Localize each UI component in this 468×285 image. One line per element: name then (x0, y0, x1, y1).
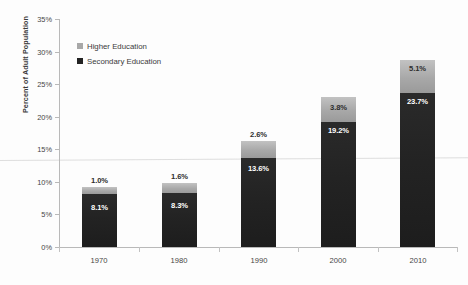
y-tick (55, 84, 60, 85)
bar-label-higher-1970: 1.0% (82, 176, 117, 185)
y-tick (55, 117, 60, 118)
y-tick (55, 182, 60, 183)
bar-segment-secondary-1970 (82, 194, 117, 247)
y-axis-line (59, 19, 60, 247)
y-tick (55, 52, 60, 53)
legend-item-secondary-education[interactable]: Secondary Education (77, 55, 161, 67)
bar-segment-secondary-2010 (400, 93, 435, 247)
x-tick (378, 247, 379, 252)
x-tick (457, 247, 458, 252)
x-axis-label-2000: 2000 (298, 256, 378, 265)
bar-label-secondary-2010: 23.7% (400, 97, 435, 106)
y-axis-label: 10% (22, 178, 52, 187)
bar-label-secondary-1970: 8.1% (82, 203, 117, 212)
y-axis-label: 35% (22, 15, 52, 24)
x-axis-label-1990: 1990 (219, 256, 299, 265)
legend-swatch-icon-higher-education (77, 43, 83, 49)
bar-segment-higher-1970 (82, 187, 117, 194)
y-tick (55, 19, 60, 20)
x-axis-label-1980: 1980 (139, 256, 219, 265)
bar-label-secondary-1980: 8.3% (162, 201, 197, 210)
x-tick (59, 247, 60, 252)
y-axis-label: 15% (22, 145, 52, 154)
bar-label-higher-2010: 5.1% (400, 64, 435, 73)
legend-label-higher-education: Higher Education (87, 42, 147, 51)
scan-artifact-line (0, 157, 468, 161)
y-tick (55, 214, 60, 215)
y-axis-label: 5% (22, 210, 52, 219)
bar-label-higher-2000: 3.8% (321, 103, 356, 112)
bar-segment-higher-1990 (241, 141, 276, 158)
y-tick (55, 149, 60, 150)
y-axis-label: 30% (22, 48, 52, 57)
y-axis-label: 0% (22, 243, 52, 252)
x-axis-line (59, 247, 457, 248)
bar-label-higher-1980: 1.6% (162, 172, 197, 181)
bar-segment-higher-1980 (162, 183, 197, 193)
y-axis-label: 25% (22, 80, 52, 89)
x-tick (298, 247, 299, 252)
chart-legend: Higher Education Secondary Education (77, 40, 161, 70)
stacked-bar-chart: Percent of Adult Population 35% 30% 25% … (0, 0, 468, 285)
legend-swatch-icon-secondary-education (77, 58, 83, 64)
x-axis-label-1970: 1970 (59, 256, 139, 265)
legend-item-higher-education[interactable]: Higher Education (77, 40, 161, 52)
bar-label-secondary-1990: 13.6% (241, 164, 276, 173)
bar-segment-secondary-2000 (321, 122, 356, 247)
x-axis-label-2010: 2010 (378, 256, 458, 265)
x-tick (139, 247, 140, 252)
y-axis-label: 20% (22, 113, 52, 122)
bar-label-secondary-2000: 19.2% (321, 126, 356, 135)
x-tick (219, 247, 220, 252)
bar-label-higher-1990: 2.6% (241, 130, 276, 139)
legend-label-secondary-education: Secondary Education (87, 57, 161, 66)
